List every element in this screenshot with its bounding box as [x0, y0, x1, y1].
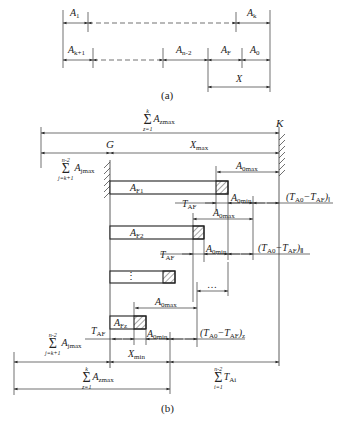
label-k: K — [276, 118, 283, 129]
label-taf-4: TAF — [91, 326, 106, 338]
label-a0: A0 — [250, 45, 260, 57]
label-an2: An-2 — [176, 45, 191, 57]
sum-top: kΣz=1 Azmax — [143, 108, 175, 132]
label-diff-2: (TA0−TAF)Ⅱ — [258, 243, 303, 255]
sum-right-bottom: n-2Σi=1 TAi — [214, 366, 236, 390]
label-xmax: Xmax — [190, 140, 208, 152]
box-label-afz: AFz — [114, 318, 127, 330]
box-label-af1: AF1 — [130, 183, 144, 195]
sum-left: n-2Σj=k+1 Ajmax — [58, 157, 95, 181]
label-a0min-2: A0min — [206, 244, 227, 256]
label-a0max-2: A0max — [213, 208, 235, 220]
box-label-ellipsis: ⋮ — [126, 271, 136, 281]
label-x: X — [236, 74, 242, 84]
label-xmin: Xmin — [128, 349, 145, 361]
label-ak1: Ak+1 — [68, 45, 85, 57]
label-a0min-4: A0min — [147, 329, 168, 341]
sum-left-bottom: n-2Σj=k+1 Ajmax — [45, 332, 82, 356]
caption-b: (b) — [161, 402, 174, 414]
box-label-af2: AF2 — [130, 228, 144, 240]
label-ellipsis: … — [207, 280, 217, 290]
label-a0max-1: A0max — [236, 161, 258, 173]
label-a0min-1: A0min — [231, 193, 252, 205]
label-diff-z: (TA0−TAF)z — [200, 328, 245, 340]
label-taf-1: TAF — [182, 199, 197, 211]
label-a0max-4: A0max — [155, 297, 177, 309]
caption-a: (a) — [161, 89, 173, 101]
label-g: G — [106, 139, 114, 150]
dimension-chain-diagram: A1 Ak Ak+1 An-2 AF A0 X (a) kΣz=1 Azmax … — [0, 0, 343, 424]
label-ak: Ak — [247, 8, 257, 20]
label-taf-2: TAF — [160, 250, 175, 262]
sum-bottom: kΣz=1 Azmax — [82, 366, 114, 390]
label-a1: A1 — [70, 8, 80, 20]
diagram-lines — [0, 0, 343, 424]
label-diff-1: (TA0−TAF)Ⅰ — [286, 192, 330, 204]
label-af: AF — [221, 45, 231, 57]
